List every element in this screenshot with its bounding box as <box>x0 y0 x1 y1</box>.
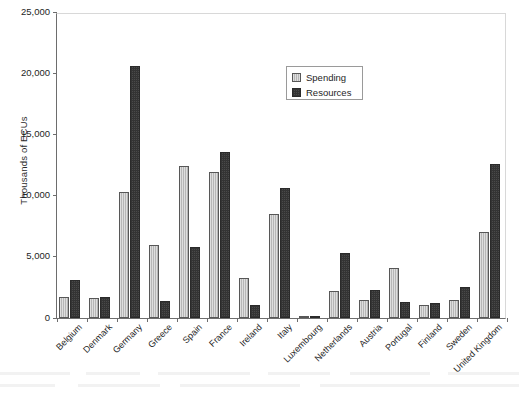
bar-chart-figure: Thousands of ECUs 05,00010,00015,00020,0… <box>0 0 519 400</box>
bar-spending <box>209 172 219 318</box>
y-axis-title: Thousands of ECUs <box>18 91 29 231</box>
x-axis-labels: BelgiumDenmarkGermanyGreeceSpainFranceIr… <box>56 322 506 400</box>
legend-item-spending: Spending <box>292 71 362 84</box>
bar-resources <box>280 188 290 318</box>
bar-group <box>417 14 447 318</box>
bar-series-container <box>57 14 505 318</box>
bar-group <box>147 14 177 318</box>
bar-group <box>87 14 117 318</box>
bar-resources <box>130 66 140 318</box>
bar-resources <box>490 164 500 318</box>
y-tick-mark <box>53 12 57 13</box>
chart-legend: Spending Resources <box>286 66 363 100</box>
bar-group <box>447 14 477 318</box>
y-tick-label: 15,000 <box>21 128 50 139</box>
legend-swatch-spending-icon <box>292 73 301 82</box>
bar-group <box>57 14 87 318</box>
bar-spending <box>119 192 129 318</box>
bar-group <box>207 14 237 318</box>
bar-group <box>177 14 207 318</box>
y-tick-label: 0 <box>45 312 50 323</box>
bar-resources <box>460 287 470 318</box>
legend-swatch-resources-icon <box>292 88 301 97</box>
bar-group <box>117 14 147 318</box>
bar-spending <box>269 214 279 318</box>
y-tick-label: 10,000 <box>21 189 50 200</box>
bar-resources <box>70 280 80 318</box>
bar-resources <box>220 152 230 318</box>
bar-group <box>477 14 507 318</box>
bar-spending <box>179 166 189 318</box>
legend-label-spending: Spending <box>306 72 346 83</box>
bar-spending <box>59 297 69 318</box>
bar-group <box>387 14 417 318</box>
y-tick-label: 20,000 <box>21 67 50 78</box>
legend-item-resources: Resources <box>292 86 362 99</box>
bar-group <box>297 14 327 318</box>
legend-label-resources: Resources <box>306 87 351 98</box>
plot-area: 05,00010,00015,00020,00025,000 <box>56 13 506 319</box>
y-tick-label: 25,000 <box>21 6 50 17</box>
bar-group <box>237 14 267 318</box>
y-tick-label: 5,000 <box>26 250 50 261</box>
bar-group <box>267 14 297 318</box>
bar-group <box>357 14 387 318</box>
bar-resources <box>310 316 320 318</box>
bar-group <box>327 14 357 318</box>
